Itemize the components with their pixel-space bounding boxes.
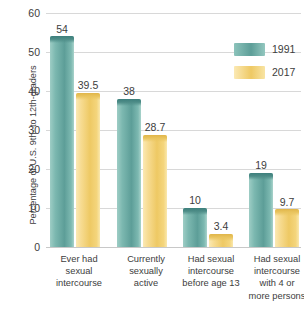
category-line: with 4 or — [241, 277, 304, 289]
gridline-60 — [46, 13, 301, 14]
bar-value-label: 39.5 — [68, 80, 108, 91]
bar-2017-currently-active[interactable] — [143, 135, 167, 247]
category-line: before age 13 — [175, 277, 247, 289]
legend-swatch-icon-2017 — [234, 66, 265, 79]
bar-cap — [209, 234, 233, 241]
legend-item-2017[interactable]: 2017 — [234, 63, 300, 81]
bar-value-label: 54 — [42, 24, 82, 35]
bar-cap — [249, 173, 273, 180]
category-line: intercourse — [43, 277, 115, 289]
category-label-currently-active: Currently sexually active — [110, 253, 182, 290]
category-line: sexually — [110, 265, 182, 277]
bar-value-label: 38 — [109, 86, 149, 97]
category-line: Had sexual — [175, 253, 247, 265]
bar-cap — [76, 93, 100, 100]
legend-swatch-icon-1991 — [234, 43, 265, 56]
bar-value-label: 3.4 — [201, 221, 241, 232]
bar-1991-ever-had[interactable] — [50, 36, 74, 247]
bar-value-label: 10 — [175, 195, 215, 206]
bar-value-label: 28.7 — [135, 122, 175, 133]
legend-label: 2017 — [272, 67, 295, 78]
y-tick-label: 0 — [10, 242, 40, 253]
category-line: active — [110, 277, 182, 289]
legend-item-1991[interactable]: 1991 — [234, 40, 300, 58]
legend: 1991 2017 — [234, 40, 300, 86]
bar-value-label: 19 — [241, 160, 281, 171]
category-line: Ever had — [43, 253, 115, 265]
y-tick-label: 20 — [10, 164, 40, 175]
category-label-before-13: Had sexual intercourse before age 13 — [175, 253, 247, 290]
y-axis-ticks: 60 50 40 30 20 10 0 — [8, 13, 40, 247]
legend-label: 1991 — [272, 44, 295, 55]
category-line: intercourse — [241, 265, 304, 277]
bar-cap — [50, 36, 74, 43]
y-tick-label: 10 — [10, 203, 40, 214]
category-label-ever-had: Ever had sexual intercourse — [43, 253, 115, 290]
category-label-four-or-more: Had sexual intercourse with 4 or more pe… — [241, 253, 304, 302]
bar-cap — [183, 208, 207, 215]
bar-chart: Percentage of U.S. 9th- to 12th-graders … — [0, 0, 304, 313]
y-tick-label: 60 — [10, 8, 40, 19]
bar-2017-four-or-more[interactable] — [275, 209, 299, 247]
category-line: intercourse — [175, 265, 247, 277]
bar-1991-four-or-more[interactable] — [249, 173, 273, 247]
bar-cap — [143, 135, 167, 142]
y-tick-label: 40 — [10, 86, 40, 97]
gridline-40 — [46, 91, 301, 92]
bar-cap — [117, 99, 141, 106]
category-line: sexual — [43, 265, 115, 277]
bar-value-label: 9.7 — [267, 197, 304, 208]
category-line: more persons — [241, 290, 304, 302]
category-line: Had sexual — [241, 253, 304, 265]
category-line: Currently — [110, 253, 182, 265]
bar-2017-ever-had[interactable] — [76, 93, 100, 247]
y-tick-label: 30 — [10, 125, 40, 136]
gridline-0 — [46, 247, 301, 248]
bar-2017-before-13[interactable] — [209, 234, 233, 247]
bar-cap — [275, 209, 299, 216]
y-tick-label: 50 — [10, 47, 40, 58]
